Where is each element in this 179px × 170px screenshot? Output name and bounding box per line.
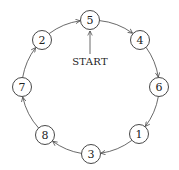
edge-4-to-6 (146, 47, 158, 77)
nodes-group: 54613872 (13, 11, 169, 164)
start-label: START (72, 56, 108, 67)
node-label: 7 (19, 81, 26, 94)
node-label: 5 (87, 14, 94, 27)
node-2: 2 (33, 31, 52, 50)
node-8: 8 (36, 126, 55, 145)
start-indicator: START (72, 31, 108, 67)
node-3: 3 (82, 145, 101, 164)
node-6: 6 (150, 78, 169, 97)
edge-5-to-4 (99, 21, 132, 34)
edge-8-to-7 (23, 97, 39, 128)
node-label: 2 (39, 34, 46, 47)
node-label: 1 (136, 128, 143, 141)
node-7: 7 (13, 78, 32, 97)
node-4: 4 (131, 31, 150, 50)
node-5: 5 (81, 11, 100, 30)
node-1: 1 (130, 125, 149, 144)
edge-6-to-1 (145, 97, 158, 127)
cycle-diagram: START 54613872 (0, 0, 179, 170)
node-label: 8 (42, 129, 49, 142)
edge-1-to-3 (101, 140, 132, 153)
node-label: 6 (156, 81, 163, 94)
node-label: 3 (88, 148, 95, 161)
edge-2-to-5 (49, 21, 80, 34)
node-label: 4 (137, 34, 144, 47)
edge-7-to-2 (23, 48, 36, 78)
edge-3-to-8 (53, 141, 82, 153)
